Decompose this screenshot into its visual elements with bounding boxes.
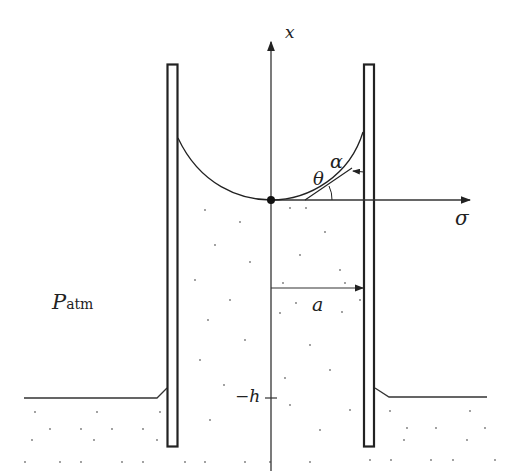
pressure-symbol: P bbox=[52, 290, 66, 314]
left-tube-wall bbox=[168, 65, 178, 447]
theta-label: θ bbox=[313, 168, 324, 189]
theta-arc bbox=[329, 186, 332, 200]
outer-liquid-surface-right bbox=[375, 388, 487, 397]
outer-liquid-surface-left bbox=[24, 388, 167, 398]
sigma-axis-label: σ bbox=[455, 206, 469, 230]
x-axis-label: x bbox=[285, 22, 295, 42]
depth-label: −h bbox=[235, 386, 260, 406]
radius-label: a bbox=[312, 293, 323, 315]
pressure-label: Patm bbox=[52, 290, 93, 314]
liquid-stipple bbox=[24, 207, 496, 463]
origin-point bbox=[267, 196, 275, 204]
alpha-label: α bbox=[330, 150, 343, 172]
pressure-subscript: atm bbox=[66, 296, 93, 312]
alpha-arrow bbox=[353, 171, 364, 172]
right-tube-wall bbox=[364, 65, 374, 447]
